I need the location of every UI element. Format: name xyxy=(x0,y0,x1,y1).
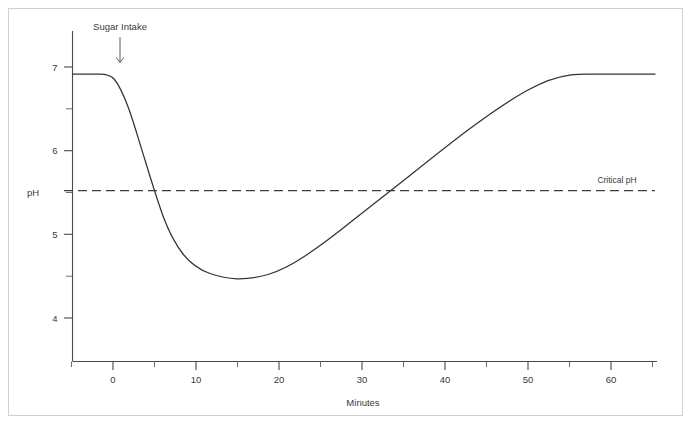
x-tick-label-60: 60 xyxy=(606,374,617,385)
sugar-intake-annotation: Sugar Intake xyxy=(93,21,147,63)
sugar-intake-label: Sugar Intake xyxy=(93,21,147,32)
y-tick-label-7: 7 xyxy=(52,62,57,73)
y-axis-title: pH xyxy=(27,187,39,198)
y-tick-label-5: 5 xyxy=(52,229,57,240)
x-axis-tick-labels: 0 10 20 30 40 50 60 xyxy=(110,374,616,385)
y-axis-tick-labels: 7 6 5 4 xyxy=(52,62,57,324)
x-tick-label-10: 10 xyxy=(191,374,202,385)
x-tick-label-30: 30 xyxy=(357,374,368,385)
x-tick-label-50: 50 xyxy=(523,374,534,385)
y-tick-label-4: 4 xyxy=(52,313,57,324)
critical-ph-label: Critical pH xyxy=(597,175,636,185)
chart-page: 7 6 5 4 pH 0 xyxy=(0,0,693,426)
x-tick-label-40: 40 xyxy=(440,374,451,385)
y-tick-label-6: 6 xyxy=(52,145,57,156)
x-tick-label-0: 0 xyxy=(110,374,115,385)
axes-group xyxy=(73,31,658,362)
y-axis-minor-ticks xyxy=(66,109,73,276)
ph-curve-line xyxy=(73,74,656,279)
x-axis-title: Minutes xyxy=(346,397,380,408)
x-tick-label-20: 20 xyxy=(274,374,285,385)
stephan-curve-chart: 7 6 5 4 pH 0 xyxy=(0,0,693,426)
x-axis-major-ticks xyxy=(113,362,611,371)
